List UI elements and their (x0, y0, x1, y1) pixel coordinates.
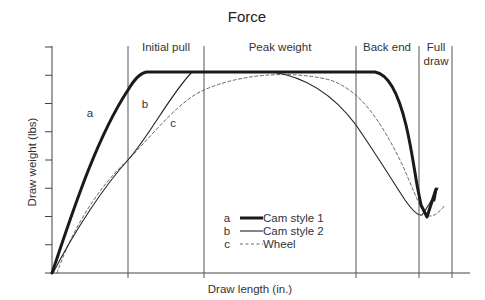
region-label-peak-weight: Peak weight (249, 41, 312, 53)
curve-cam-style-1 (52, 72, 436, 273)
legend: a Cam style 1 b Cam style 2 c Wheel (224, 212, 324, 250)
y-ticks (45, 47, 52, 273)
legend-item-cam-style-2: b Cam style 2 (224, 225, 324, 237)
axes (45, 46, 470, 273)
x-axis-label: Draw length (in.) (208, 283, 293, 295)
legend-item-cam-style-1: a Cam style 1 (224, 212, 324, 224)
legend-item-wheel: c Wheel (224, 238, 295, 250)
curve-label-c: c (170, 117, 176, 129)
region-label-full-draw-line2: draw (424, 55, 450, 67)
chart-title: Force (228, 8, 266, 25)
curve-wheel (57, 75, 445, 273)
curve-label-b: b (142, 98, 148, 110)
region-labels: Initial pull Peak weight Back end Full d… (142, 41, 449, 67)
legend-label-wheel: Wheel (263, 238, 296, 250)
legend-key-a: a (224, 212, 231, 224)
legend-key-b: b (224, 225, 230, 237)
legend-label-cam-style-2: Cam style 2 (263, 225, 324, 237)
legend-key-c: c (224, 238, 230, 250)
region-label-full-draw-line1: Full (427, 41, 446, 53)
legend-label-cam-style-1: Cam style 1 (263, 212, 324, 224)
curve-cam-style-2 (53, 72, 438, 273)
force-chart: Force Initial pull Peak weight Back end … (0, 0, 485, 300)
y-axis-label: Draw weight (lbs) (26, 117, 38, 206)
region-label-back-end: Back end (363, 41, 411, 53)
curves (52, 72, 445, 273)
region-label-initial-pull: Initial pull (142, 41, 190, 53)
curve-label-a: a (87, 107, 94, 119)
